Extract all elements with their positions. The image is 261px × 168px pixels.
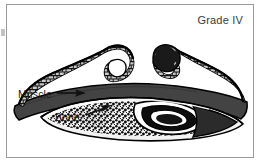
bone-label: Bone (55, 111, 80, 123)
muscle-label: Muscle (18, 88, 52, 100)
figure-root: Grade IV (0, 0, 261, 168)
edge-artifact (1, 29, 5, 36)
anatomical-illustration (7, 5, 255, 159)
figure-frame: Grade IV (6, 4, 254, 158)
